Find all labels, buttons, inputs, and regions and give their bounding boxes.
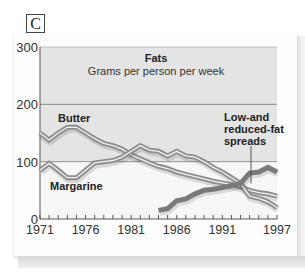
y-tick-label: 200 — [16, 97, 38, 112]
y-tick-label: 100 — [16, 155, 38, 170]
x-tick-label: 1981 — [117, 223, 145, 237]
svg-text:spreads: spreads — [224, 135, 266, 147]
chart-title: Fats — [145, 52, 168, 64]
y-tick-label: 300 — [16, 40, 38, 55]
x-tick-label: 1991 — [208, 223, 236, 237]
x-tick-label: 1986 — [163, 223, 191, 237]
x-tick-label: 1976 — [72, 223, 100, 237]
butter-label: Butter — [58, 112, 91, 124]
x-tick-label: 1997 — [263, 223, 291, 237]
margarine-label: Margarine — [50, 180, 103, 192]
svg-text:reduced-fat: reduced-fat — [224, 123, 284, 135]
x-tick-label: 1971 — [26, 223, 54, 237]
svg-text:Low-and: Low-and — [224, 111, 269, 123]
chart-subtitle: Grams per person per week — [88, 65, 225, 77]
line-chart: 0100200300197119761981198619911997 Fats … — [0, 0, 305, 273]
